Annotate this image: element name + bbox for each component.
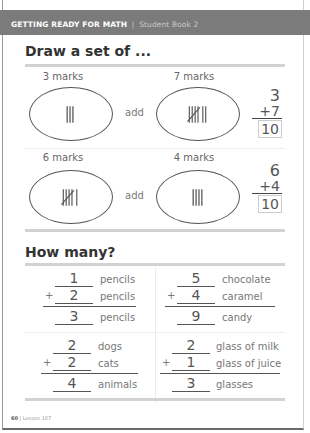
problem1-right-label: 7 marks (154, 71, 234, 82)
sum-blank[interactable]: 3 (55, 308, 93, 325)
sum-unit: glasses (216, 377, 253, 393)
tally-marks-4 (157, 171, 239, 223)
plus-sign: + (45, 287, 53, 305)
sum-line (165, 306, 275, 307)
plus-sign: + (162, 354, 170, 372)
problem1-answer-box[interactable]: 10 (258, 120, 282, 138)
problem1-addend2: +7 (252, 104, 282, 119)
sum-unit: pencils (100, 310, 135, 326)
header-subtitle: Student Book 2 (139, 20, 198, 29)
problem2-addend2: +4 (252, 179, 282, 194)
sum-blank[interactable]: 3 (172, 375, 210, 392)
addend-b-blank[interactable]: 2 (53, 354, 91, 371)
draw-section-title: Draw a set of ... (25, 43, 151, 59)
problem1-left-oval[interactable] (29, 87, 113, 141)
column-divider (155, 268, 156, 403)
addend-b-blank[interactable]: 1 (172, 354, 210, 371)
sum-line (41, 373, 138, 374)
section-rule (25, 64, 285, 67)
addend-a-blank[interactable]: 2 (172, 337, 210, 354)
page-number: 60 (11, 415, 18, 421)
addend-a-unit: dogs (98, 339, 122, 355)
addend-a-unit: glass of milk (216, 339, 279, 355)
addend-b-unit: caramel (222, 289, 263, 305)
problem2-vertical-sum: 6 +4 10 (252, 163, 282, 213)
lesson-label: Lesson 107 (23, 415, 51, 421)
problem1-addend1: 3 (252, 88, 282, 104)
tally-marks-3 (30, 88, 112, 140)
section-rule (25, 263, 285, 266)
section-rule (25, 398, 285, 401)
addend-a-unit: pencils (100, 272, 135, 288)
problem2-left-label: 6 marks (23, 152, 103, 163)
addend-a-blank[interactable]: 1 (55, 270, 93, 287)
addend-b-unit: glass of juice (216, 356, 281, 372)
addend-b-unit: pencils (100, 289, 135, 305)
problem2-add-word: add (125, 190, 144, 201)
sum-blank[interactable]: 9 (177, 308, 215, 325)
sum-line (43, 306, 136, 307)
row-divider (25, 332, 285, 333)
problem1-left-label: 3 marks (23, 71, 103, 82)
tally-marks-7 (157, 88, 239, 140)
problem1-vertical-sum: 3 +7 10 (252, 88, 282, 138)
how-many-section-title: How many? (25, 244, 115, 260)
problem1-add-word: add (125, 107, 144, 118)
sum-unit: candy (222, 310, 252, 326)
divider (25, 148, 285, 149)
addend-a-blank[interactable]: 2 (53, 337, 91, 354)
footer-separator: | (20, 415, 22, 421)
sum-blank[interactable]: 4 (53, 375, 91, 392)
problem1-right-oval[interactable] (156, 87, 240, 141)
addend-b-blank[interactable]: 4 (177, 287, 215, 304)
header-separator: | (132, 20, 135, 29)
plus-sign: + (167, 287, 175, 305)
problem2-right-oval[interactable] (156, 170, 240, 224)
sum-line (160, 373, 280, 374)
section-rule (25, 229, 285, 232)
problem2-addend1: 6 (252, 163, 282, 179)
addend-b-blank[interactable]: 2 (55, 287, 93, 304)
footer: 60 | Lesson 107 (11, 415, 51, 421)
addend-a-unit: chocolate (222, 272, 271, 288)
plus-sign: + (43, 354, 51, 372)
addend-b-unit: cats (98, 356, 119, 372)
addend-a-blank[interactable]: 5 (177, 270, 215, 287)
problem2-left-oval[interactable] (29, 170, 113, 224)
problem2-right-label: 4 marks (154, 152, 234, 163)
tally-marks-6 (30, 171, 112, 223)
header-title: GETTING READY FOR MATH (11, 20, 127, 29)
sum-unit: animals (98, 377, 137, 393)
problem2-answer-box[interactable]: 10 (258, 195, 282, 213)
header: GETTING READY FOR MATH | Student Book 2 (11, 20, 198, 29)
